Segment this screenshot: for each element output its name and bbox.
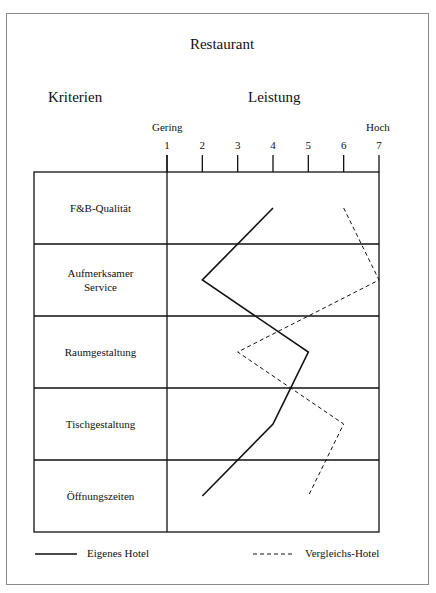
axis-tick-label: 7 [376, 139, 382, 151]
axis-tick-label: 4 [270, 139, 276, 151]
profile-chart: 1234567F&B-QualitätAufmerksamerServiceRa… [0, 0, 436, 593]
criteria-label: Aufmerksamer [68, 267, 134, 279]
legend-compare-label: Vergleichs-Hotel [305, 547, 379, 559]
legend-own-label: Eigenes Hotel [87, 547, 149, 559]
axis-tick-label: 2 [200, 139, 206, 151]
criteria-label: Raumgestaltung [65, 346, 137, 358]
axis-tick-label: 3 [235, 139, 241, 151]
criteria-label: Service [84, 281, 117, 293]
series-line-own-hotel [202, 208, 308, 496]
criteria-label: Öffnungszeiten [67, 490, 135, 502]
criteria-label: F&B-Qualität [70, 202, 131, 214]
axis-tick-label: 6 [341, 139, 347, 151]
criteria-label: Tischgestaltung [66, 418, 136, 430]
axis-tick-label: 1 [164, 139, 170, 151]
axis-tick-label: 5 [306, 139, 312, 151]
